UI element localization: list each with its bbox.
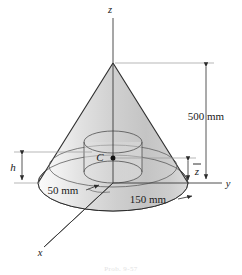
dimension-base-radius: 150 mm	[130, 193, 192, 205]
z-axis-label: z	[107, 4, 112, 15]
x-axis-label: x	[37, 247, 43, 258]
y-axis-label: y	[225, 178, 231, 189]
cone-centroid-diagram: z y x C 500 mm z	[0, 0, 242, 275]
centroid-label: C	[96, 151, 104, 163]
cylinder-height-dim-label: h	[10, 161, 16, 173]
figure-caption: Prob. 9-57	[0, 265, 242, 273]
base-radius-leader	[178, 196, 192, 199]
figure-container: z y x C 500 mm z	[0, 0, 242, 275]
cone-height-dim-label: 500 mm	[188, 110, 225, 122]
base-radius-dim-label: 150 mm	[130, 193, 167, 205]
zbar-dim-label: z	[194, 165, 200, 177]
centroid-dot	[111, 156, 116, 161]
inner-radius-dim-label: 50 mm	[48, 184, 79, 196]
